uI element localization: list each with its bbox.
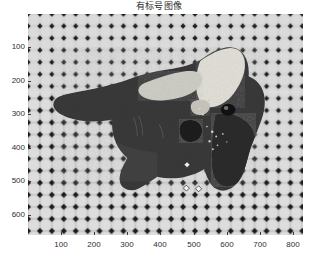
ytick-mark-200 (28, 81, 31, 82)
ytick-mark-500 (28, 181, 31, 182)
labeled-image (28, 14, 303, 235)
axes-image-plot (28, 14, 303, 235)
xtick-label-600: 600 (214, 240, 240, 249)
xtick-label-800: 800 (280, 240, 306, 249)
ytick-label-300: 300 (1, 109, 25, 118)
xtick-mark-400 (160, 232, 161, 235)
xtick-mark-800 (293, 232, 294, 235)
xtick-label-100: 100 (48, 240, 74, 249)
ytick-mark-300 (28, 114, 31, 115)
xtick-label-500: 500 (181, 240, 207, 249)
xtick-label-300: 300 (114, 240, 140, 249)
xtick-mark-200 (94, 232, 95, 235)
xtick-label-200: 200 (81, 240, 107, 249)
ytick-label-400: 400 (1, 143, 25, 152)
ytick-mark-600 (28, 215, 31, 216)
page-title: 有标号图像 (0, 1, 318, 12)
xtick-mark-600 (227, 232, 228, 235)
xtick-mark-700 (260, 232, 261, 235)
xtick-mark-500 (194, 232, 195, 235)
ytick-mark-100 (28, 47, 31, 48)
xtick-mark-100 (61, 232, 62, 235)
xtick-label-700: 700 (247, 240, 273, 249)
ytick-mark-400 (28, 148, 31, 149)
ytick-label-500: 500 (1, 176, 25, 185)
figure-window: 有标号图像 (0, 0, 318, 265)
xtick-mark-300 (127, 232, 128, 235)
ytick-label-600: 600 (1, 210, 25, 219)
xtick-label-400: 400 (147, 240, 173, 249)
ytick-label-100: 100 (1, 42, 25, 51)
ytick-label-200: 200 (1, 76, 25, 85)
